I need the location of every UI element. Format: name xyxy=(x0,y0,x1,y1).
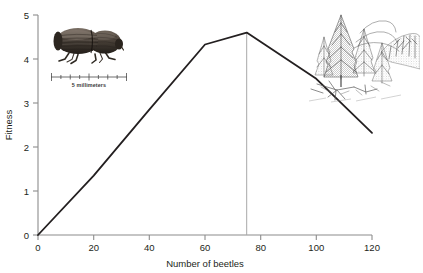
scale-bar xyxy=(50,72,128,82)
main-conifer xyxy=(324,15,358,87)
x-axis-title: Number of beetles xyxy=(166,258,244,269)
x-tick-label: 0 xyxy=(35,242,40,253)
y-tick-label: 1 xyxy=(24,186,29,197)
x-axis-tick-labels: 0 20 40 60 80 100 120 xyxy=(35,242,380,253)
conifer-forest-illustration xyxy=(306,6,420,110)
y-axis-ticks xyxy=(33,15,38,235)
x-tick-label: 100 xyxy=(308,242,324,253)
y-axis-tick-labels: 5 4 3 2 1 0 xyxy=(24,10,29,241)
scale-bar-caption: 5 millimeters xyxy=(44,82,134,88)
x-tick-label: 80 xyxy=(255,242,266,253)
x-axis-ticks xyxy=(38,235,372,240)
y-tick-label: 3 xyxy=(24,98,29,109)
x-tick-label: 40 xyxy=(144,242,155,253)
fallen-branches xyxy=(311,81,377,100)
figure-canvas: 5 4 3 2 1 0 0 20 40 60 80 100 120 Numb xyxy=(0,0,423,273)
y-tick-label: 5 xyxy=(24,10,29,21)
y-tick-label: 4 xyxy=(24,54,29,65)
x-tick-label: 60 xyxy=(200,242,211,253)
bark-beetle-inset: 5 millimeters xyxy=(44,22,134,100)
x-tick-label: 20 xyxy=(88,242,99,253)
bark-beetle-photograph xyxy=(52,24,124,66)
x-tick-label: 120 xyxy=(364,242,380,253)
y-tick-label: 0 xyxy=(24,230,29,241)
y-tick-label: 2 xyxy=(24,142,29,153)
y-axis-title: Fitness xyxy=(3,109,14,140)
